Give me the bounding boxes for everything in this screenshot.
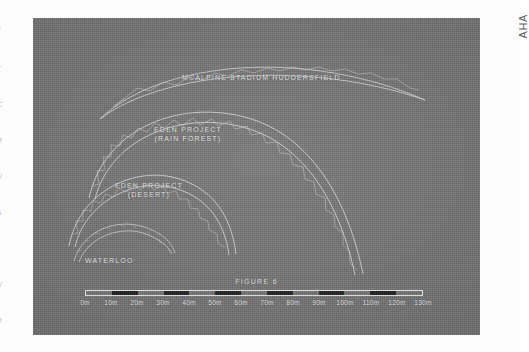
scale-bar-segment <box>138 291 164 295</box>
scale-tick-label: 20m <box>130 299 144 306</box>
bleed-glyph: e <box>0 134 2 145</box>
scale-bar-segment <box>319 291 345 295</box>
bleed-glyph: v <box>0 278 3 289</box>
label-eden-project-desert: EDEN PROJECT (DESERT) <box>115 181 183 199</box>
figure-caption: FIGURE 6 <box>33 278 480 285</box>
scale-tick-label: 60m <box>234 299 248 306</box>
bleed-glyph: c <box>0 98 2 109</box>
scale-bar <box>85 290 423 296</box>
adjacent-page-bleed: frcevsive <box>0 0 14 352</box>
scale-tick-label: 100m <box>336 299 353 306</box>
margin-note-label: AHA <box>517 14 529 38</box>
scale-tick-label: 130m <box>414 299 431 306</box>
scale-tick-label: 80m <box>286 299 300 306</box>
scale-bar-segment <box>396 291 422 295</box>
scale-bar-segment <box>293 291 319 295</box>
scale-tick-label: 40m <box>182 299 196 306</box>
arch-comparison-drawing <box>33 18 480 335</box>
figure-photo-plate: MCALPINE STADIUM HUDDERSFIELD EDEN PROJE… <box>33 18 480 335</box>
bleed-glyph: f <box>0 26 1 37</box>
scale-tick-label: 110m <box>363 299 380 306</box>
scale-tick-label: 30m <box>156 299 170 306</box>
scale-bar-segment <box>241 291 267 295</box>
scale-tick-label: 0m <box>80 299 90 306</box>
scale-tick-label: 70m <box>260 299 274 306</box>
scale-bar-segment <box>86 291 112 295</box>
label-mcalpine-stadium: MCALPINE STADIUM HUDDERSFIELD <box>182 73 340 82</box>
label-waterloo: WATERLOO <box>85 256 133 265</box>
scale-bar-segment <box>215 291 241 295</box>
scale-bar-segment <box>189 291 215 295</box>
scale-tick-label: 120m <box>388 299 405 306</box>
scale-tick-label: 90m <box>312 299 326 306</box>
scale-tick-label: 10m <box>104 299 118 306</box>
scale-bar-segment <box>344 291 370 295</box>
label-eden-project-rain-forest: EDEN PROJECT (RAIN FOREST) <box>154 125 222 143</box>
scale-tick-label: 50m <box>208 299 222 306</box>
scale-bar-segment <box>267 291 293 295</box>
scale-bar-segment <box>112 291 138 295</box>
bleed-glyph: v <box>0 170 3 181</box>
bleed-glyph: r <box>0 62 1 73</box>
scale-bar-segment <box>164 291 190 295</box>
bleed-glyph: e <box>0 314 2 325</box>
bleed-glyph: s <box>0 206 1 217</box>
scale-bar-segment <box>370 291 396 295</box>
scale-bar-tick-labels: 0m10m20m30m40m50m60m70m80m90m100m110m120… <box>85 299 423 309</box>
